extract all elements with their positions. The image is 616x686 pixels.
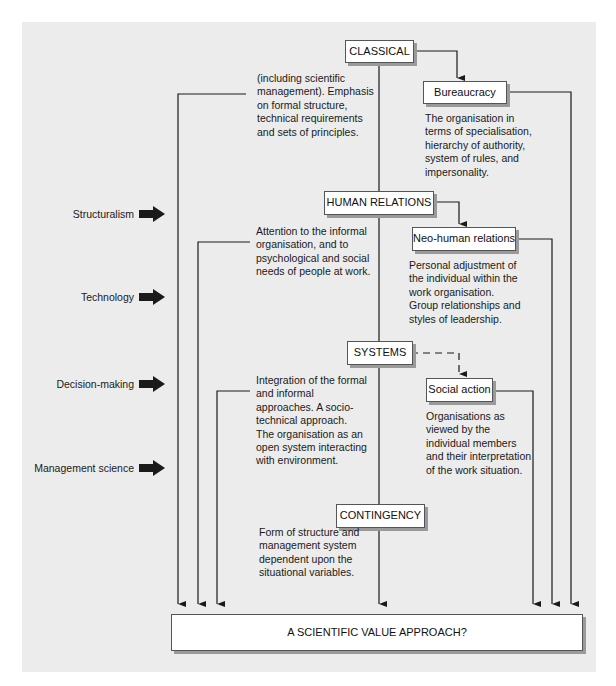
neo-human-relations-label: Neo-human relations	[413, 232, 515, 244]
neo-human-relations-box: Neo-human relations	[412, 227, 516, 251]
block-arrow-right-icon	[139, 376, 165, 392]
desc-line: Form of structure and	[259, 526, 359, 539]
influence-management-science: Management science	[34, 460, 165, 476]
desc-line: and their interpretation	[426, 450, 531, 463]
desc-line: The organisation as an	[256, 428, 367, 441]
desc-line: and sets of principles.	[257, 126, 374, 139]
human-relations-label: HUMAN RELATIONS	[327, 196, 432, 208]
desc-line: system of rules, and	[425, 152, 532, 165]
contingency-label: CONTINGENCY	[340, 509, 421, 521]
influence-decision-making: Decision-making	[56, 376, 165, 392]
desc-line: of the work situation.	[426, 464, 531, 477]
classical-label: CLASSICAL	[349, 45, 410, 57]
desc-line: Group relationships and	[409, 299, 521, 312]
social-action-description: Organisations as viewed by the individua…	[426, 410, 531, 477]
desc-line: organisation, and to	[256, 238, 370, 251]
desc-line: (including scientific	[257, 72, 374, 85]
desc-line: dependent upon the	[259, 553, 359, 566]
outcome-label: A SCIENTIFIC VALUE APPROACH?	[287, 626, 467, 638]
desc-line: with environment.	[256, 454, 367, 467]
human-relations-box: HUMAN RELATIONS	[324, 191, 434, 215]
desc-line: The organisation in	[425, 112, 532, 125]
desc-line: needs of people at work.	[256, 265, 370, 278]
classical-box: CLASSICAL	[345, 40, 414, 63]
desc-line: technical approach.	[256, 414, 367, 427]
systems-description: Integration of the formal and informal a…	[256, 374, 367, 468]
desc-line: management system	[259, 539, 359, 552]
classical-description: (including scientific management). Empha…	[257, 72, 374, 139]
block-arrow-right-icon	[139, 206, 165, 222]
social-action-box: Social action	[426, 378, 493, 402]
desc-line: and informal	[256, 387, 367, 400]
desc-line: open system interacting	[256, 441, 367, 454]
desc-line: Organisations as	[426, 410, 531, 423]
bureaucracy-box: Bureaucracy	[423, 81, 507, 104]
desc-line: technical requirements	[257, 112, 374, 125]
influence-label: Technology	[81, 290, 134, 304]
influence-label: Management science	[34, 461, 134, 475]
desc-line: impersonality.	[425, 166, 532, 179]
block-arrow-right-icon	[139, 460, 165, 476]
systems-label: SYSTEMS	[354, 346, 407, 358]
desc-line: viewed by the	[426, 423, 531, 436]
human-relations-description: Attention to the informal organisation, …	[256, 225, 370, 279]
desc-line: terms of specialisation,	[425, 125, 532, 138]
outcome-box: A SCIENTIFIC VALUE APPROACH?	[171, 614, 583, 651]
influence-label: Structuralism	[73, 207, 134, 221]
desc-line: on formal structure,	[257, 99, 374, 112]
desc-line: the individual within the	[409, 272, 521, 285]
desc-line: psychological and social	[256, 252, 370, 265]
influence-structuralism: Structuralism	[73, 206, 165, 222]
social-action-label: Social action	[428, 383, 490, 395]
desc-line: Integration of the formal	[256, 374, 367, 387]
desc-line: situational variables.	[259, 566, 359, 579]
contingency-box: CONTINGENCY	[336, 504, 425, 528]
desc-line: work organisation.	[409, 286, 521, 299]
desc-line: approaches. A socio-	[256, 401, 367, 414]
influence-technology: Technology	[81, 289, 165, 305]
contingency-description: Form of structure and management system …	[259, 526, 359, 580]
bureaucracy-description: The organisation in terms of specialisat…	[425, 112, 532, 179]
desc-line: styles of leadership.	[409, 313, 521, 326]
block-arrow-right-icon	[139, 289, 165, 305]
desc-line: management). Emphasis	[257, 85, 374, 98]
systems-box: SYSTEMS	[347, 341, 413, 365]
desc-line: hierarchy of authority,	[425, 139, 532, 152]
desc-line: Personal adjustment of	[409, 259, 521, 272]
influence-label: Decision-making	[56, 377, 134, 391]
desc-line: individual members	[426, 437, 531, 450]
desc-line: Attention to the informal	[256, 225, 370, 238]
neo-human-relations-description: Personal adjustment of the individual wi…	[409, 259, 521, 326]
bureaucracy-label: Bureaucracy	[434, 86, 496, 98]
